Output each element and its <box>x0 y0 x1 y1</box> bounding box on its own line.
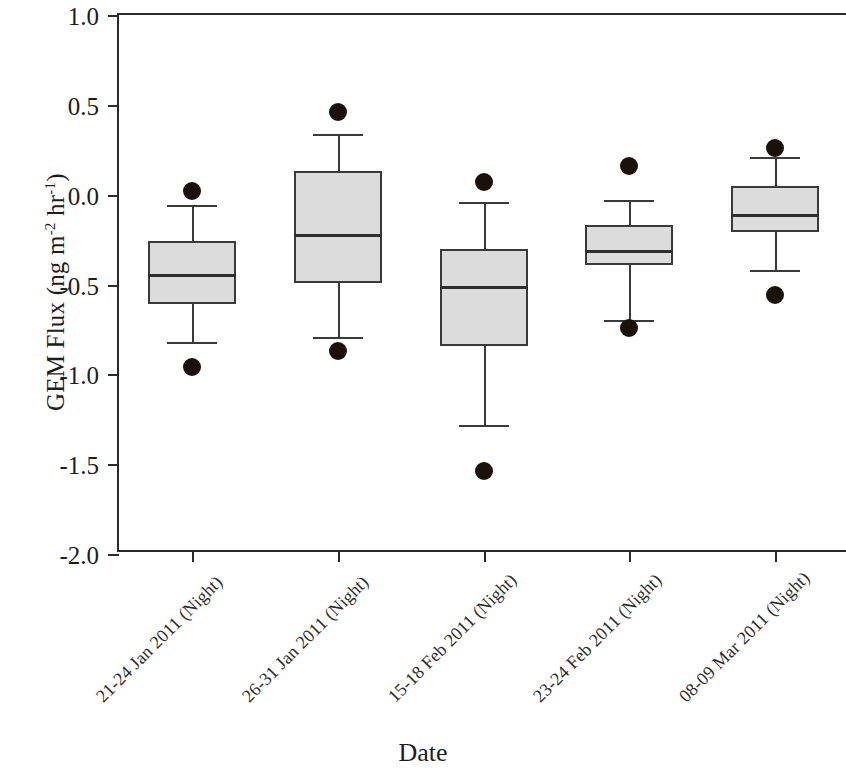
median-line <box>731 214 819 217</box>
y-axis-title-suffix: ) <box>42 173 69 182</box>
y-axis-tick: -1.0 <box>108 374 119 376</box>
lower-whisker-stem <box>192 304 194 342</box>
y-axis-tick: 0.5 <box>108 105 119 107</box>
lower-whisker-cap <box>750 270 800 272</box>
outlier-point <box>183 358 201 376</box>
lower-whisker-stem <box>775 232 777 270</box>
x-axis-tick-label: 15-18 Feb 2011 (Night) <box>384 570 521 707</box>
outlier-point <box>620 319 638 337</box>
upper-whisker-cap <box>750 157 800 159</box>
y-axis-tick-label: 0.0 <box>68 183 99 210</box>
x-axis-tick-label: 23-24 Feb 2011 (Night) <box>529 570 666 707</box>
median-line <box>294 234 382 237</box>
outlier-point <box>329 103 347 121</box>
y-axis-tick-label: -2.0 <box>59 542 99 569</box>
outlier-point <box>620 157 638 175</box>
outlier-point <box>183 182 201 200</box>
lower-whisker-cap <box>167 342 217 344</box>
y-axis-tick: -0.5 <box>108 285 119 287</box>
y-axis-tick: -1.5 <box>108 464 119 466</box>
median-line <box>585 250 673 253</box>
upper-whisker-stem <box>338 134 340 172</box>
lower-whisker-cap <box>313 337 363 339</box>
y-axis-title-exponent-1: -2 <box>42 222 58 235</box>
upper-whisker-cap <box>459 202 509 204</box>
median-line <box>148 274 236 277</box>
x-axis-tick <box>192 550 194 562</box>
box-plot-figure: GEM Flux (ng m-2 hr-1) 1.00.50.0-0.5-1.0… <box>0 0 846 782</box>
y-axis-tick: 0.0 <box>108 195 119 197</box>
x-axis-title: Date <box>0 738 846 768</box>
y-axis-tick-label: 0.5 <box>68 93 99 120</box>
y-axis-tick-label: -1.0 <box>59 362 99 389</box>
x-axis-tick <box>484 550 486 562</box>
y-axis-title-exponent-2: -1 <box>42 182 58 195</box>
outlier-point <box>329 342 347 360</box>
x-axis-tick-label: 21-24 Jan 2011 (Night) <box>92 572 227 707</box>
lower-whisker-stem <box>338 283 340 337</box>
lower-whisker-stem <box>484 346 486 425</box>
upper-whisker-cap <box>604 200 654 202</box>
x-axis-tick <box>338 550 340 562</box>
lower-whisker-stem <box>629 265 631 321</box>
y-axis-tick-label: 1.0 <box>68 3 99 30</box>
upper-whisker-stem <box>192 205 194 241</box>
outlier-point <box>766 139 784 157</box>
box-plot-group <box>440 15 528 550</box>
y-axis-title-mid: hr <box>42 195 69 223</box>
upper-whisker-cap <box>313 134 363 136</box>
box-plot-group <box>148 15 236 550</box>
x-axis-tick-label: 26-31 Jan 2011 (Night) <box>238 572 373 707</box>
outlier-point <box>475 462 493 480</box>
box-plot-group <box>294 15 382 550</box>
lower-whisker-cap <box>459 425 509 427</box>
x-axis-tick-label: 08-09 Mar 2011 (Night) <box>675 568 814 707</box>
box-iqr <box>440 249 528 346</box>
upper-whisker-cap <box>167 205 217 207</box>
y-axis-tick: -2.0 <box>108 554 119 556</box>
outlier-point <box>766 286 784 304</box>
box-iqr <box>294 171 382 282</box>
box-iqr <box>585 225 673 265</box>
outlier-point <box>475 173 493 191</box>
y-axis-tick: 1.0 <box>108 15 119 17</box>
median-line <box>440 286 528 289</box>
y-axis-tick-label: -0.5 <box>59 273 99 300</box>
plot-area: 1.00.50.0-0.5-1.0-1.5-2.0 <box>117 13 846 552</box>
upper-whisker-stem <box>484 202 486 249</box>
x-axis-tick <box>629 550 631 562</box>
box-plot-group <box>731 15 819 550</box>
upper-whisker-stem <box>775 157 777 186</box>
x-axis-tick <box>775 550 777 562</box>
y-axis-tick-label: -1.5 <box>59 452 99 479</box>
box-plot-group <box>585 15 673 550</box>
upper-whisker-stem <box>629 200 631 225</box>
box-iqr <box>731 186 819 233</box>
